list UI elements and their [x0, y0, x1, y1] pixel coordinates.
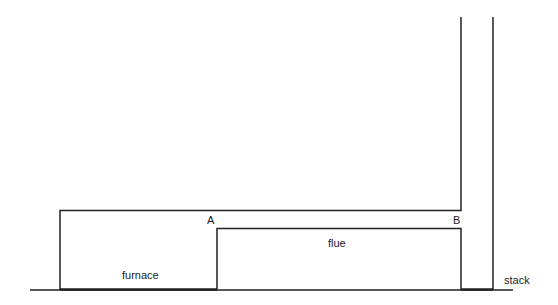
furnace-flue-stack-diagram: A B flue furnace stack — [0, 0, 558, 305]
label-point-b: B — [453, 214, 460, 226]
label-point-a: A — [207, 214, 215, 226]
label-stack: stack — [504, 274, 530, 286]
label-flue: flue — [328, 237, 346, 249]
outer-enclosure-line — [60, 17, 461, 290]
label-furnace: furnace — [122, 269, 159, 281]
